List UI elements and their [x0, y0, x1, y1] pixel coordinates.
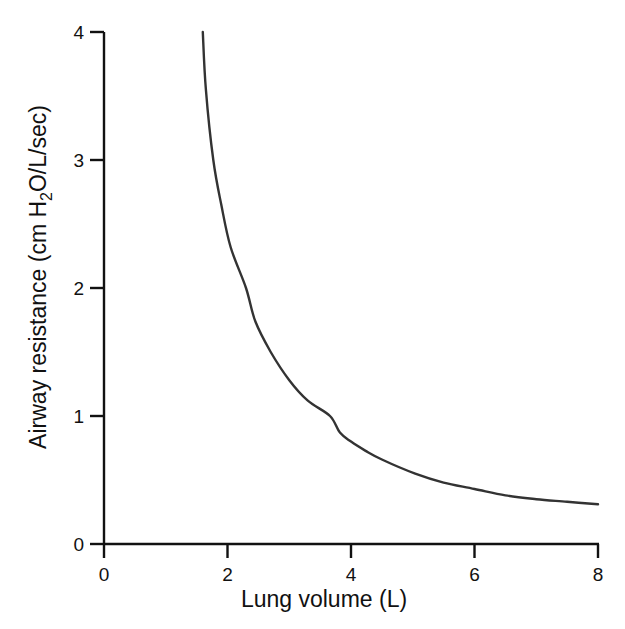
- chart-svg: 01234 02468 Lung volume (L) Airway resis…: [0, 0, 625, 629]
- axes: [104, 32, 599, 545]
- y-tick-label: 1: [73, 406, 84, 427]
- y-axis-label: Airway resistance (cm H2O/L/sec): [25, 105, 55, 449]
- resistance-curve: [203, 32, 598, 504]
- x-tick-label: 4: [346, 564, 357, 585]
- y-axis-label-rest: O/L/sec): [25, 105, 51, 192]
- chart-container: 01234 02468 Lung volume (L) Airway resis…: [0, 0, 625, 629]
- y-tick-label: 3: [73, 150, 84, 171]
- y-axis-label-subscript: 2: [38, 192, 55, 201]
- x-tick-label: 0: [99, 564, 110, 585]
- y-axis-label-main: Airway resistance (cm H: [25, 201, 51, 449]
- x-tick-label: 8: [593, 564, 604, 585]
- x-tick-label: 6: [469, 564, 480, 585]
- x-axis-label: Lung volume (L): [241, 586, 407, 612]
- y-tick-label: 0: [73, 534, 84, 555]
- y-tick-label: 4: [73, 22, 84, 43]
- x-tick-label: 2: [222, 564, 233, 585]
- x-ticks: 02468: [99, 544, 604, 585]
- y-tick-label: 2: [73, 278, 84, 299]
- y-ticks: 01234: [73, 22, 104, 555]
